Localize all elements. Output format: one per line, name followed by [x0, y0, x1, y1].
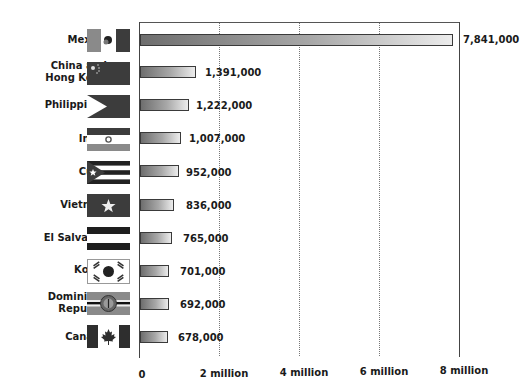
value-label: 836,000	[186, 200, 232, 211]
value-label: 678,000	[178, 332, 224, 343]
bar-row-canada: Canada 678,000	[0, 321, 529, 354]
bar	[140, 66, 196, 78]
x-tick-2-million: 2 million	[200, 368, 249, 379]
bar-row-vietnam: Vietnam 836,000	[0, 189, 529, 222]
value-label: 692,000	[180, 299, 226, 310]
bar-row-mexico: Mexico 7,841,000	[0, 24, 529, 57]
mexico-flag-icon	[87, 29, 130, 52]
bar	[140, 265, 169, 277]
bar	[140, 34, 453, 46]
cuba-flag-icon	[87, 161, 130, 184]
value-label: 701,000	[180, 266, 226, 277]
bar	[140, 132, 181, 144]
canada-flag-icon	[87, 325, 130, 348]
value-label: 952,000	[186, 167, 232, 178]
el-salvador-flag-icon	[87, 227, 130, 250]
bar	[140, 165, 179, 177]
korea-flag-icon	[87, 259, 130, 284]
bar	[140, 199, 174, 211]
philippines-flag-icon	[87, 95, 130, 118]
value-label: 1,222,000	[196, 100, 252, 111]
x-tick-0: 0	[139, 369, 146, 380]
bar	[140, 99, 189, 111]
bar-row-china-hong-kong: China andHong Kong 1,391,000	[0, 57, 529, 90]
x-tick-4-million: 4 million	[280, 367, 329, 378]
bar-row-philippines: Philippines 1,222,000	[0, 90, 529, 123]
x-tick-6-million: 6 million	[360, 366, 409, 377]
bar-row-india: India 1,007,000	[0, 123, 529, 156]
x-tick-8-million: 8 million	[440, 365, 489, 376]
bar-row-cuba: Cuba 952,000	[0, 156, 529, 189]
value-label: 765,000	[183, 233, 229, 244]
vietnam-flag-icon	[87, 194, 130, 217]
dominica-style-flag-icon	[87, 292, 130, 315]
bar-row-el-salvador: El Salvador 765,000	[0, 222, 529, 255]
bar-chart: Mexico 7,841,000 China andHong Kong 1,39…	[0, 0, 529, 391]
bar	[140, 232, 172, 244]
bar-row-korea: Korea 701,000	[0, 255, 529, 288]
value-label: 7,841,000	[463, 34, 519, 45]
bar	[140, 331, 168, 343]
bar-row-dominican-republic: DominicanRepublic 692,000	[0, 288, 529, 321]
value-label: 1,007,000	[189, 133, 245, 144]
value-label: 1,391,000	[205, 67, 261, 78]
china-flag-icon	[87, 62, 130, 85]
bar	[140, 298, 169, 310]
india-flag-icon	[87, 128, 130, 151]
